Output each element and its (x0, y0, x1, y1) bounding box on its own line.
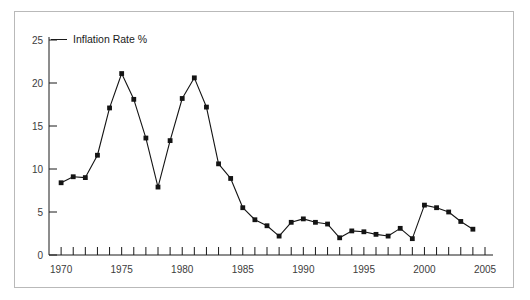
series-polyline (61, 74, 473, 239)
y-axis: 0510152025 (32, 35, 57, 261)
data-point-marker (168, 138, 173, 143)
data-point-marker (289, 220, 294, 225)
y-axis-tick-label: 25 (32, 35, 44, 46)
data-point-marker (95, 153, 100, 158)
x-axis-tick-label: 1980 (171, 264, 194, 275)
data-point-marker (83, 175, 88, 180)
data-point-marker (410, 236, 415, 241)
data-point-marker (374, 232, 379, 237)
data-point-marker (446, 210, 451, 215)
data-point-marker (361, 229, 366, 234)
data-point-marker (228, 176, 233, 181)
x-axis: 19701975198019851990199520002005 (49, 247, 497, 275)
data-point-marker (325, 222, 330, 227)
data-point-marker (349, 229, 354, 234)
data-point-marker (71, 174, 76, 179)
x-axis-tick-label: 2000 (413, 264, 436, 275)
data-point-marker (143, 136, 148, 141)
data-point-marker (192, 75, 197, 80)
inflation-line-chart: 0510152025 19701975198019851990199520002… (15, 12, 515, 289)
data-point-marker (107, 106, 112, 111)
chart-figure-frame: 0510152025 19701975198019851990199520002… (14, 11, 514, 288)
data-point-marker (422, 203, 427, 208)
y-axis-tick-label: 0 (37, 250, 43, 261)
data-point-marker (313, 220, 318, 225)
y-axis-tick-label: 10 (32, 164, 44, 175)
data-point-marker (180, 96, 185, 101)
data-point-marker (59, 180, 64, 185)
y-axis-tick-label: 15 (32, 121, 44, 132)
x-axis-tick-label: 2005 (474, 264, 497, 275)
data-point-marker (277, 234, 282, 239)
data-series-inflation-rate (51, 40, 475, 242)
x-axis-tick-label: 1985 (232, 264, 255, 275)
data-point-marker (131, 97, 136, 102)
x-axis-tick-label: 1990 (292, 264, 315, 275)
data-point-marker (156, 185, 161, 190)
data-point-marker (386, 234, 391, 239)
x-axis-tick-label: 1975 (111, 264, 134, 275)
data-point-marker (470, 227, 475, 232)
data-point-marker (434, 205, 439, 210)
data-point-marker (301, 216, 306, 221)
data-point-marker (265, 223, 270, 228)
x-axis-tick-label: 1970 (50, 264, 73, 275)
chart-plot-area: 0510152025 19701975198019851990199520002… (15, 12, 515, 289)
y-axis-tick-label: 5 (37, 207, 43, 218)
data-point-marker (252, 217, 257, 222)
data-point-marker (204, 105, 209, 110)
data-point-marker (119, 71, 124, 76)
data-point-marker (240, 205, 245, 210)
data-point-marker (458, 219, 463, 224)
y-axis-tick-label: 20 (32, 78, 44, 89)
data-point-marker (216, 161, 221, 166)
chart-title: Inflation Rate % (73, 33, 147, 45)
x-axis-tick-label: 1995 (353, 264, 376, 275)
data-point-marker (337, 235, 342, 240)
data-point-marker (398, 226, 403, 231)
